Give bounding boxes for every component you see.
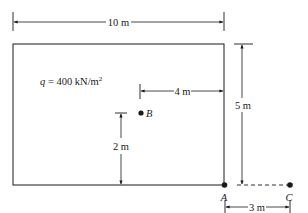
load-value: = 400 kN/m [45,76,98,87]
dimension-b-from-right: 4 m [140,84,223,99]
dimension-b-from-bottom-label: 2 m [113,141,129,152]
dimension-width-label: 10 m [108,17,129,28]
dimension-b-from-right-label: 4 m [174,86,190,97]
load-label: q = 400 kN/m2 [40,75,103,87]
dimension-height: 5 m [234,44,253,184]
point-c-label: C [285,192,293,203]
dimension-a-to-c-label: 3 m [249,202,265,213]
dimension-a-to-c: 3 m [225,200,290,213]
point-b-label: B [146,108,153,119]
foundation-diagram: 10 m q = 400 kN/m2 4 m B 2 m 5 m A C [0,0,308,213]
dimension-height-label: 5 m [235,100,251,111]
load-unit-exponent: 2 [99,75,103,83]
point-a-label: A [220,192,228,203]
dimension-b-from-bottom: 2 m [113,113,129,184]
point-b: B [138,108,153,119]
dimension-width: 10 m [13,12,224,31]
foundation-rectangle [13,44,224,185]
